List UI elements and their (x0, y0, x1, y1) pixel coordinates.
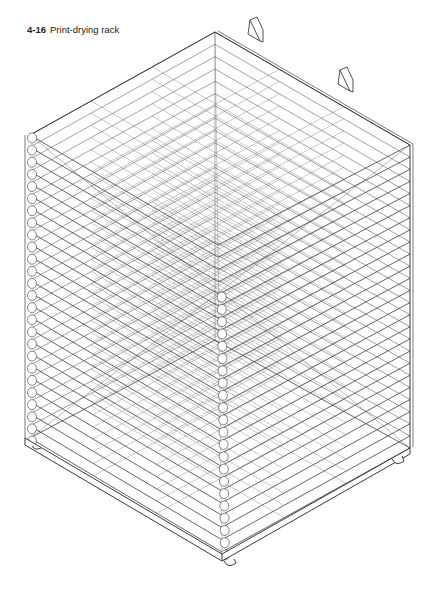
print-drying-rack-illustration (0, 0, 437, 590)
top-handles (248, 17, 353, 92)
shelf-hinges-front (217, 292, 229, 560)
